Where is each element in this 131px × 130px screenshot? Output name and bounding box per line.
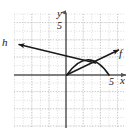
y-tick-label-5: 5 bbox=[57, 20, 62, 31]
y-axis-label: y bbox=[56, 7, 62, 19]
x-axis-label: x bbox=[119, 74, 125, 86]
curve-arc bbox=[67, 60, 109, 75]
curve-label-h: h bbox=[2, 36, 8, 48]
graph-svg: y 5 x 5 h f bbox=[0, 0, 131, 130]
x-tick-label-5: 5 bbox=[109, 76, 114, 87]
graph-figure: y 5 x 5 h f bbox=[0, 0, 131, 130]
curve-h bbox=[19, 45, 96, 64]
